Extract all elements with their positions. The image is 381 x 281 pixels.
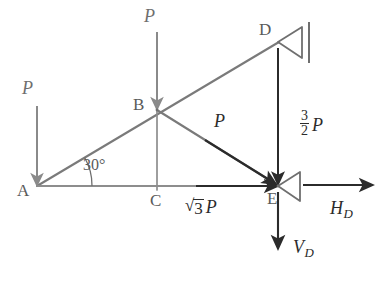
node-label-E: E — [267, 190, 277, 207]
truss-diagram-canvas — [0, 0, 381, 281]
reaction-label-VD: VD — [293, 238, 314, 260]
fraction-numerator: 3 — [300, 109, 309, 123]
force-label-three-halves-P: 3 2 P — [300, 108, 323, 140]
node-label-B: B — [133, 96, 144, 113]
node-label-A: A — [17, 182, 29, 199]
radical-symbol: √ 3 — [185, 197, 204, 217]
fraction-three-halves: 3 2 — [300, 109, 309, 139]
node-label-C: C — [150, 192, 161, 209]
reaction-label-HD: HD — [330, 199, 353, 221]
reaction-label-HD-subscript: D — [343, 206, 352, 221]
reaction-label-HD-base: H — [330, 198, 343, 218]
force-label-P-at-B: P — [144, 7, 155, 25]
force-label-P-diagonal: P — [214, 112, 225, 130]
force-P-diagonal-shaft — [205, 140, 271, 181]
figure-root: A B C D E 30° P P P √ 3 P 3 2 P HD — [0, 0, 381, 281]
fraction-multiplier: P — [312, 116, 323, 134]
support-pin-E — [278, 172, 300, 201]
reaction-label-VD-subscript: D — [304, 245, 313, 260]
fraction-denominator: 2 — [300, 123, 309, 138]
node-marker-E — [277, 185, 280, 188]
node-label-D: D — [259, 21, 271, 38]
force-label-P-at-A: P — [22, 79, 33, 97]
node-marker-B — [156, 109, 159, 112]
angle-label-30-degrees: 30° — [83, 157, 105, 173]
radical-radicand: 3 — [193, 199, 204, 217]
reaction-label-VD-base: V — [293, 237, 304, 257]
support-pin-D — [278, 22, 309, 63]
radical-multiplier: P — [206, 198, 217, 216]
force-label-sqrt3-P: √ 3 P — [185, 197, 217, 217]
